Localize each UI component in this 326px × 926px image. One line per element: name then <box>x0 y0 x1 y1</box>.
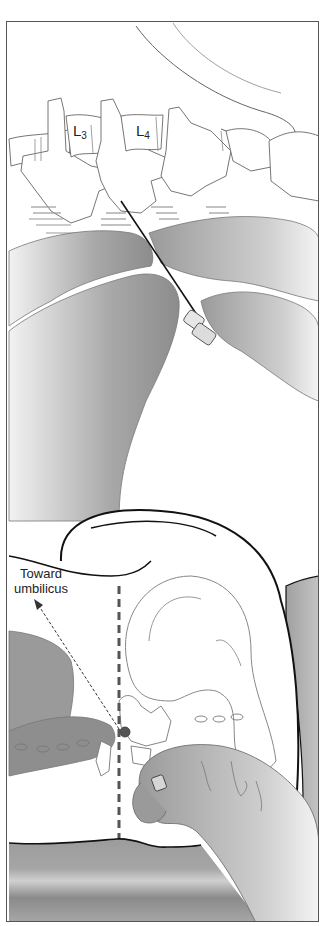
direction-arrow-head <box>34 599 43 610</box>
right-hand-lower <box>201 292 319 401</box>
illustration-canvas <box>7 22 319 922</box>
insertion-site <box>120 727 130 737</box>
vertebra-label-l3: L3 <box>73 122 87 141</box>
vertebra-subscript: 4 <box>144 130 150 141</box>
vertebra-subscript: 3 <box>81 130 87 141</box>
vertebra-label-l4: L4 <box>136 122 150 141</box>
direction-label-line2: umbilicus <box>11 581 71 596</box>
left-thumb <box>9 274 179 521</box>
illustration-frame: L3 L4 Toward umbilicus <box>6 21 319 922</box>
direction-label-line1: Toward <box>11 566 71 581</box>
direction-label: Toward umbilicus <box>11 566 71 596</box>
upper-panel <box>9 23 319 521</box>
lumbar-spine <box>9 98 319 223</box>
